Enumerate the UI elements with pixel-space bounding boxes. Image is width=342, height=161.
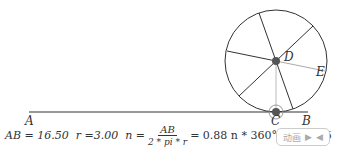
play-icon[interactable]: ▶ — [305, 132, 312, 142]
animate-label: 动画 — [283, 131, 301, 144]
fraction-denominator: 2 * pi * r — [148, 136, 187, 147]
n-value: = 0.88 — [190, 129, 227, 142]
point-D[interactable] — [272, 57, 280, 65]
spokes — [227, 13, 313, 109]
label-E: E — [316, 65, 325, 79]
fraction: AB 2 * pi * r — [148, 124, 187, 147]
ab-value: AB = 16.50 — [5, 129, 69, 142]
n-label: n = — [125, 129, 145, 142]
label-D: D — [284, 50, 294, 64]
radius-value: r =3.00 — [76, 129, 118, 142]
reverse-icon[interactable]: ◀ — [316, 132, 323, 142]
fraction-numerator: AB — [158, 124, 177, 136]
animation-control[interactable]: 动画 ▶ ◀ — [276, 128, 330, 146]
